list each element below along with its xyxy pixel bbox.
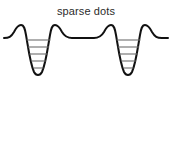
figure-root: sparse dots dense dots [0,0,172,156]
panel-dense-dots: dense dots [0,78,172,156]
sparse-potential-curve [4,25,168,75]
sparse-well-left-energy-levels [27,40,51,68]
sparse-well-right-energy-levels [117,40,141,68]
panel-title-sparse: sparse dots [0,5,172,18]
sparse-dots-potential-diagram [0,18,172,80]
panel-sparse-dots: sparse dots [0,0,172,80]
